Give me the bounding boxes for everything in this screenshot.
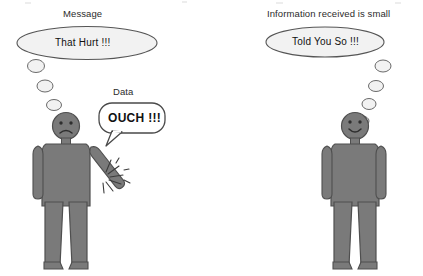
- left-trail-dot: [37, 80, 53, 92]
- left-thought-text: That Hurt !!!: [55, 37, 110, 48]
- ouch-speech-text: OUCH !!!: [108, 111, 161, 125]
- illustration-canvas: Message That Hurt !!! Data OUCH !!! Info…: [0, 0, 423, 276]
- data-label: Data: [113, 86, 133, 97]
- right-trail-dot: [375, 60, 391, 72]
- left-trail-dot: [47, 100, 62, 111]
- right-thought-text: Told You So !!!: [292, 36, 359, 47]
- right-trail-dot: [362, 99, 376, 110]
- message-label: Message: [63, 8, 102, 19]
- left-trail-dot: [28, 60, 45, 73]
- receiver-figure: [322, 113, 386, 270]
- information-received-label: Information received is small: [267, 8, 390, 19]
- right-trail-dot: [369, 81, 384, 92]
